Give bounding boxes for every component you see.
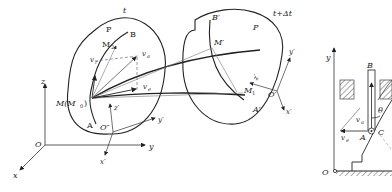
label-M: M(M bbox=[55, 99, 76, 108]
label-ve-right: v bbox=[341, 134, 345, 142]
label-M1-sub: 1 bbox=[252, 90, 255, 96]
label-O-double-prime: O″ bbox=[100, 123, 110, 132]
label-ve-right-sub: e bbox=[346, 137, 349, 143]
label-va-right-sub: a bbox=[361, 119, 364, 125]
body-outline-t-dt bbox=[183, 9, 283, 124]
label-y: y bbox=[148, 142, 154, 151]
label-origin-O: O bbox=[322, 168, 329, 177]
label-t-dt: t+Δt bbox=[273, 9, 293, 18]
label-z: z bbox=[40, 77, 46, 86]
label-axis-y: y bbox=[325, 53, 331, 62]
label-B: B bbox=[130, 30, 136, 39]
label-A-prime: A′ bbox=[252, 105, 261, 114]
label-M2-sub: 2 bbox=[111, 44, 114, 50]
label-A: A bbox=[86, 121, 93, 130]
body-outline-t bbox=[67, 18, 165, 134]
label-point-A: A bbox=[359, 133, 366, 142]
label-va-right: v bbox=[356, 116, 360, 124]
curve-A-prime-B-prime bbox=[209, 20, 244, 100]
label-M2: M bbox=[102, 40, 110, 49]
label-angle-theta: θ bbox=[378, 106, 383, 115]
label-M-close: ) bbox=[84, 99, 87, 108]
label-t: t bbox=[123, 6, 127, 15]
left-figure: t t+Δt P P B M 2 M(M 0 ) A O″ B′ M′ M 1 … bbox=[13, 6, 295, 180]
label-P-2: P bbox=[252, 23, 259, 32]
label-va: v bbox=[142, 50, 146, 58]
right-figure: B y O A C θ v a v e bbox=[322, 48, 392, 177]
label-ve-sub: e bbox=[148, 86, 151, 92]
label-B-prime: B′ bbox=[211, 13, 220, 22]
label-va-sub: a bbox=[147, 53, 150, 59]
label-P-1: P bbox=[106, 25, 112, 34]
label-y-prime-1: y′ bbox=[157, 116, 164, 124]
label-x-prime-1: x′ bbox=[100, 158, 106, 166]
label-vr: v bbox=[90, 56, 94, 64]
label-point-C: C bbox=[378, 128, 384, 137]
label-y-prime-2: y′ bbox=[288, 48, 295, 56]
label-M-prime: M′ bbox=[213, 38, 224, 47]
label-vr-sub: r bbox=[95, 59, 98, 65]
label-z-prime-1: z′ bbox=[113, 104, 120, 112]
label-ve: v bbox=[143, 83, 147, 91]
label-x-prime-2: x′ bbox=[286, 108, 292, 116]
label-z-prime-2: z′ bbox=[251, 73, 261, 82]
label-rod-B: B bbox=[366, 61, 373, 70]
label-x: x bbox=[13, 171, 18, 180]
kinematics-diagram: t t+Δt P P B M 2 M(M 0 ) A O″ B′ M′ M 1 … bbox=[0, 0, 392, 192]
label-O-prime: O′ bbox=[268, 90, 277, 99]
label-O: O bbox=[35, 140, 42, 149]
label-M0-sub: 0 bbox=[80, 103, 83, 109]
